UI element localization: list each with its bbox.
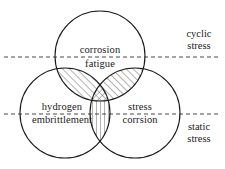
label-corrsion: corrsion — [122, 114, 157, 126]
label-corrosion: corrosion — [80, 44, 121, 56]
label-cyclic: cyclic — [186, 28, 211, 40]
label-cyclic-stress: stress — [187, 40, 210, 52]
label-hydrogen: hydrogen — [42, 101, 82, 113]
label-static-stress: stress — [187, 133, 210, 145]
label-stress: stress — [128, 101, 152, 113]
label-fatigue: fatigue — [85, 58, 115, 70]
label-embrittlement: embrittlement — [32, 114, 92, 126]
label-static: static — [188, 121, 210, 133]
venn-diagram: corrosion fatigue hydrogen embrittlement… — [0, 0, 225, 169]
